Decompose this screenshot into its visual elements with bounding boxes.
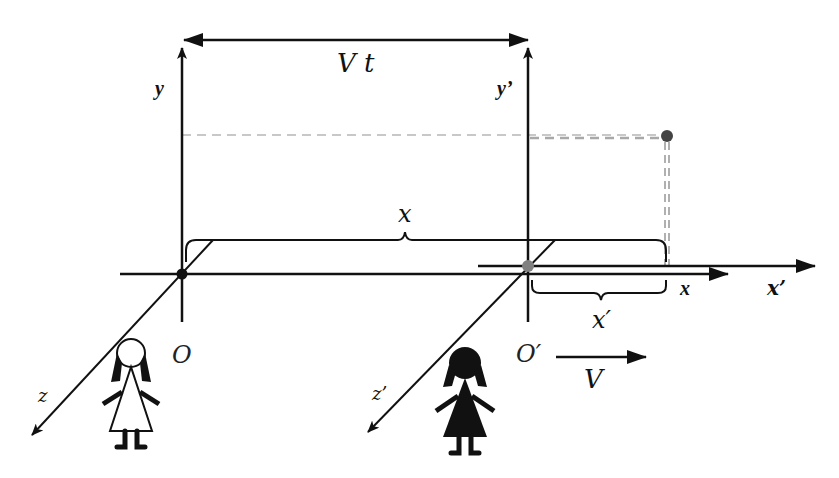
observer-moving-icon — [436, 347, 494, 453]
x-prime-axis-label: x’ — [766, 276, 786, 300]
z-axis-label: z — [37, 385, 48, 406]
brace-x — [186, 232, 666, 262]
z-prime-axis-label: z’ — [371, 383, 387, 404]
origin-prime-point — [522, 260, 534, 272]
x-axis-label: x — [679, 277, 690, 299]
event-point — [661, 130, 673, 142]
brace-x-label: x — [398, 200, 412, 228]
origin-point — [177, 269, 188, 280]
observer-at-rest-icon — [103, 339, 159, 447]
y-axis-label: y — [153, 77, 164, 100]
brace-x-prime-label: x′ — [592, 306, 612, 334]
galilean-frames-diagram: V t y y’ x x’ z z’ x x′ O O′ V — [0, 0, 839, 478]
displacement-label: V t — [337, 48, 375, 78]
origin-label: O — [172, 341, 192, 369]
velocity-label: V — [584, 364, 605, 394]
origin-prime-label: O′ — [516, 340, 542, 368]
y-prime-axis-label: y’ — [495, 77, 513, 100]
brace-x-prime — [532, 280, 666, 300]
